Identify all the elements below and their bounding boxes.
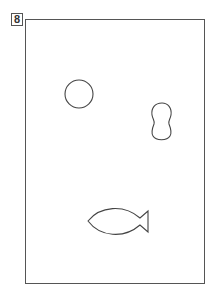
fish-shape bbox=[88, 209, 148, 235]
circle-shape bbox=[65, 80, 93, 108]
peanut-shape bbox=[152, 103, 171, 140]
shapes-canvas bbox=[0, 0, 216, 297]
